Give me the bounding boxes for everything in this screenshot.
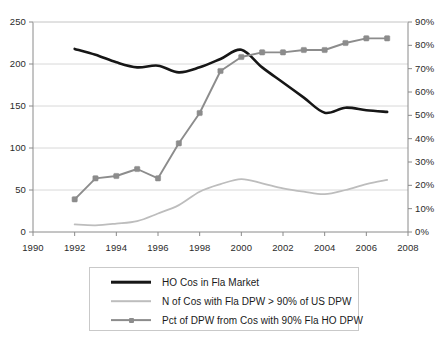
y-axis-right-tick-label: 30% (415, 156, 434, 167)
series-line-1 (75, 179, 388, 225)
series-line-0 (75, 49, 388, 113)
tick-marks-group (29, 22, 412, 236)
series-marker-2 (343, 40, 348, 45)
y-axis-left-tick-label: 250 (0, 16, 26, 27)
x-axis-tick-label: 1996 (138, 242, 178, 253)
legend-item-pct-of-dpw: Pct of DPW from Cos with 90% Fla HO DPW (90, 310, 360, 330)
series-marker-2 (218, 68, 223, 73)
x-axis-tick-label: 1990 (13, 242, 53, 253)
x-axis-tick-label: 2004 (305, 242, 345, 253)
series-marker-2 (280, 50, 285, 55)
legend-label-2: Pct of DPW from Cos with 90% Fla HO DPW (162, 315, 363, 326)
series-marker-2 (385, 36, 390, 41)
y-axis-left-tick-label: 150 (0, 100, 26, 111)
y-axis-right-tick-label: 50% (415, 109, 434, 120)
legend-label-0: HO Cos in Fla Market (162, 277, 259, 288)
series-marker-2 (114, 173, 119, 178)
series-marker-2 (135, 166, 140, 171)
gridlines-group (33, 22, 408, 190)
y-axis-right-tick-label: 0% (415, 226, 429, 237)
y-axis-right-tick-label: 70% (415, 63, 434, 74)
legend-label-1: N of Cos with Fla DPW > 90% of US DPW (162, 296, 351, 307)
x-axis-tick-label: 1992 (55, 242, 95, 253)
series-marker-2 (260, 50, 265, 55)
legend-line-swatch-light-grey (108, 294, 154, 308)
series-marker-2 (72, 197, 77, 202)
series-marker-2 (301, 47, 306, 52)
x-axis-tick-label: 2000 (221, 242, 261, 253)
series-marker-2 (322, 47, 327, 52)
chart-legend: HO Cos in Fla Market N of Cos with Fla D… (89, 267, 359, 331)
y-axis-left-tick-label: 100 (0, 142, 26, 153)
series-marker-2 (176, 141, 181, 146)
series-marker-2 (93, 176, 98, 181)
y-axis-right-tick-label: 90% (415, 16, 434, 27)
legend-item-ho-cos: HO Cos in Fla Market (90, 272, 360, 292)
series-line-2 (75, 38, 388, 199)
series-marker-2 (364, 36, 369, 41)
legend-line-swatch-black (108, 275, 154, 289)
series-marker-2 (155, 176, 160, 181)
y-axis-right-tick-label: 10% (415, 203, 434, 214)
x-axis-tick-label: 2002 (263, 242, 303, 253)
chart-container: 050100150200250 0%10%20%30%40%50%60%70%8… (0, 0, 447, 341)
series-marker-2 (239, 54, 244, 59)
legend-item-n-of-cos: N of Cos with Fla DPW > 90% of US DPW (90, 291, 360, 311)
y-axis-left-tick-label: 0 (0, 226, 26, 237)
x-axis-tick-label: 1994 (96, 242, 136, 253)
y-axis-right-tick-label: 20% (415, 179, 434, 190)
y-axis-right-tick-label: 80% (415, 39, 434, 50)
x-axis-tick-label: 2008 (388, 242, 428, 253)
y-axis-left-tick-label: 50 (0, 184, 26, 195)
y-axis-right-tick-label: 40% (415, 133, 434, 144)
series-marker-2 (197, 110, 202, 115)
x-axis-tick-label: 2006 (346, 242, 386, 253)
legend-marker-square-icon (129, 318, 134, 323)
y-axis-right-tick-label: 60% (415, 86, 434, 97)
x-axis-tick-label: 1998 (180, 242, 220, 253)
y-axis-left-tick-label: 200 (0, 58, 26, 69)
legend-line-swatch-marker-grey (108, 313, 154, 327)
